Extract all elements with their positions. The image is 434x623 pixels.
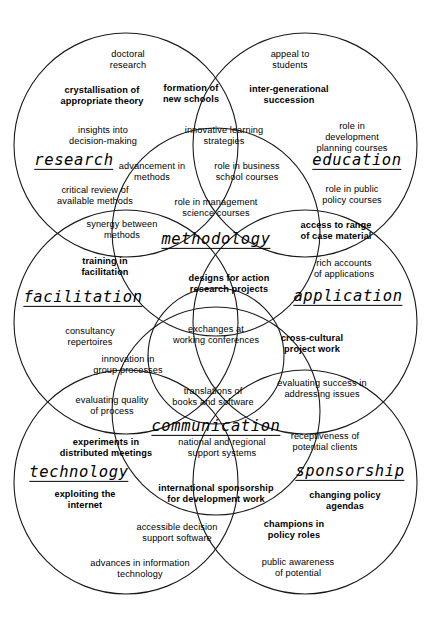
- diagram-item-label: advances in information technology: [90, 558, 189, 580]
- diagram-item-label: training in facilitation: [81, 256, 128, 278]
- diagram-labels-layer: doctoral researchappeal to studentscryst…: [0, 0, 434, 623]
- diagram-item-label: appeal to students: [271, 49, 310, 71]
- diagram-item-label: exchanges at working conferences: [173, 324, 259, 346]
- domain-label-technology: technology: [29, 464, 128, 482]
- diagram-item-label: role in development planning courses: [311, 121, 393, 154]
- diagram-item-label: role in public policy courses: [322, 184, 382, 206]
- diagram-item-label: evaluating quality of process: [76, 395, 149, 417]
- diagram-item-label: innovative learning strategies: [185, 125, 264, 147]
- domain-label-methodology: methodology: [161, 231, 270, 249]
- diagram-item-label: innovation in group processes: [93, 354, 162, 376]
- diagram-item-label: critical review of available methods: [57, 185, 133, 207]
- diagram-item-label: public awareness of potential: [262, 557, 335, 579]
- diagram-item-label: national and regional support systems: [178, 437, 265, 459]
- domain-label-facilitation: facilitation: [23, 289, 142, 307]
- diagram-item-label: doctoral research: [110, 49, 147, 71]
- diagram-item-label: inter-generational succession: [249, 84, 328, 106]
- diagram-item-label: advancement in methods: [119, 161, 185, 183]
- venn-diagram-canvas: doctoral researchappeal to studentscryst…: [0, 0, 434, 623]
- diagram-item-label: rich accounts of applications: [314, 258, 374, 280]
- domain-label-application: application: [293, 288, 402, 306]
- diagram-item-label: translations of books and software: [172, 386, 253, 408]
- diagram-item-label: cross-cultural project work: [281, 333, 343, 355]
- diagram-item-label: accessible decision support software: [136, 522, 217, 544]
- diagram-item-label: receptiveness of potential clients: [291, 431, 360, 453]
- diagram-item-label: consultancy repertoires: [65, 326, 115, 348]
- diagram-item-label: exploiting the internet: [54, 489, 115, 511]
- domain-label-sponsorship: sponsorship: [295, 463, 404, 481]
- diagram-item-label: formation of new schools: [163, 83, 219, 105]
- diagram-item-label: designs for action research projects: [189, 273, 270, 295]
- diagram-item-label: changing policy agendas: [309, 490, 380, 512]
- domain-label-research: research: [34, 152, 113, 170]
- diagram-item-label: insights into decision-making: [69, 125, 137, 147]
- diagram-item-label: crystallisation of appropriate theory: [61, 85, 144, 107]
- diagram-item-label: role in business school courses: [214, 161, 279, 183]
- diagram-item-label: experiments in distributed meetings: [60, 437, 152, 459]
- diagram-item-label: role in management science courses: [174, 197, 257, 219]
- domain-label-communication: communication: [151, 418, 280, 436]
- diagram-item-label: international sponsorship for developmen…: [158, 483, 273, 505]
- diagram-item-label: synergy between methods: [87, 219, 158, 241]
- domain-label-education: education: [312, 152, 401, 170]
- diagram-item-label: access to range of case material: [300, 220, 371, 242]
- diagram-item-label: champions in policy roles: [264, 519, 324, 541]
- diagram-item-label: evaluating success in addressing issues: [277, 378, 366, 400]
